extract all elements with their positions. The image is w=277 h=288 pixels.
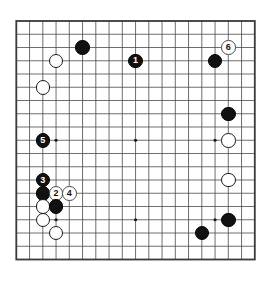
go-stone-white (221, 133, 236, 148)
star-point (54, 218, 57, 221)
go-stone-move-4: 4 (62, 186, 77, 201)
star-point (213, 218, 216, 221)
go-stone-white (221, 173, 236, 188)
go-stone-black (221, 107, 236, 122)
star-point (134, 218, 137, 221)
move-number-label: 1 (133, 56, 138, 65)
go-stone-black (221, 213, 236, 228)
go-stone-move-5: 5 (36, 133, 51, 148)
star-point (213, 139, 216, 142)
star-point (54, 139, 57, 142)
go-stone-black (49, 199, 64, 214)
go-stone-white (36, 80, 51, 95)
go-stone-white (36, 199, 51, 214)
move-number-label: 2 (54, 188, 59, 197)
go-stone-white (36, 213, 51, 228)
move-number-label: 3 (40, 175, 45, 184)
go-stone-move-6: 6 (221, 40, 236, 55)
move-number-label: 4 (67, 188, 72, 197)
move-number-label: 5 (40, 135, 45, 144)
go-board-diagram: 165324 (0, 0, 277, 288)
go-stone-black (75, 40, 90, 55)
move-number-label: 6 (226, 43, 231, 52)
star-point (134, 139, 137, 142)
go-stone-move-1: 1 (128, 54, 143, 69)
